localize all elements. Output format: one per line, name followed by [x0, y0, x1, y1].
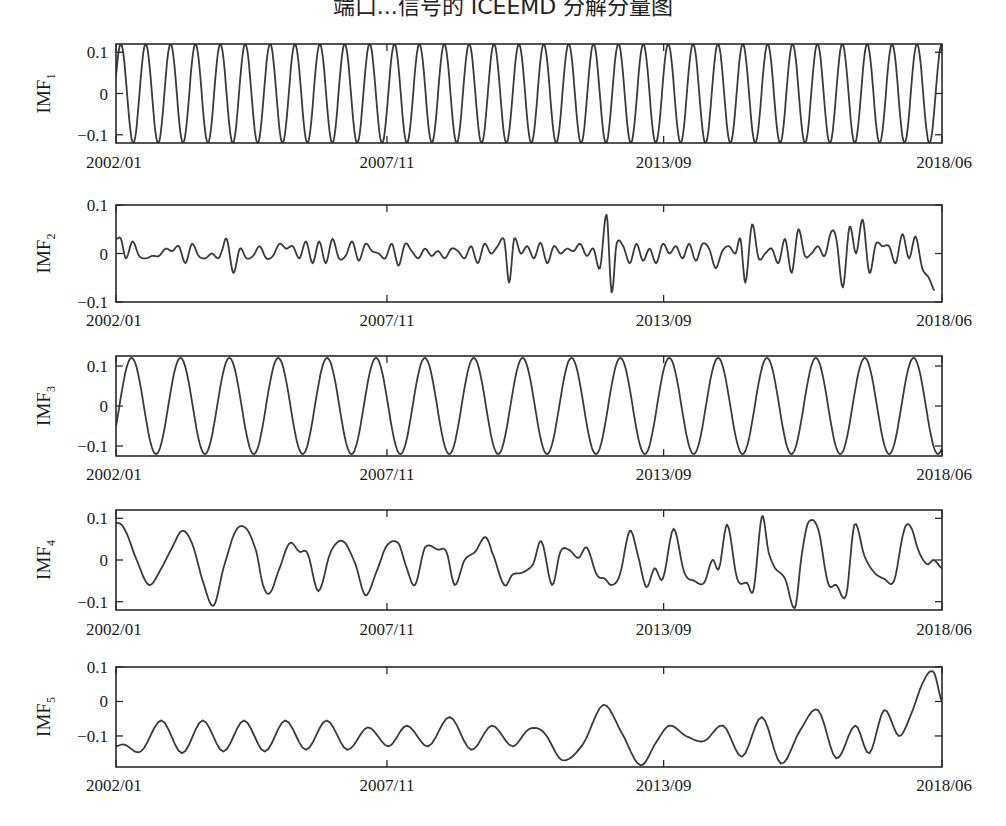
x-tick-label: 2018/06	[916, 620, 972, 639]
y-tick-label: −0.1	[77, 293, 108, 312]
y-tick-label: −0.1	[77, 437, 108, 456]
panel-imf5: 0.10−0.12002/012007/112013/092018/06IMF5	[33, 658, 972, 795]
y-axis-label: IMF5	[33, 697, 58, 737]
y-axis-label: IMF2	[33, 234, 58, 274]
axes-frame	[116, 667, 942, 767]
y-tick-label: 0.1	[87, 658, 108, 677]
y-tick-label: 0.1	[87, 357, 108, 376]
x-tick-label: 2013/09	[636, 620, 692, 639]
x-tick-label: 2007/11	[359, 620, 414, 639]
y-axis-label: IMF1	[33, 74, 58, 114]
panel-imf2: 0.10−0.12002/012007/112013/092018/06IMF2	[33, 196, 972, 330]
y-tick-label: 0	[100, 692, 109, 711]
y-tick-label: 0.1	[87, 509, 108, 528]
y-tick-label: −0.1	[77, 593, 108, 612]
panel-imf4: 0.10−0.12002/012007/112013/092018/06IMF4	[33, 509, 972, 639]
x-tick-label: 2013/09	[636, 311, 692, 330]
x-tick-label: 2013/09	[636, 465, 692, 484]
x-tick-label: 2018/06	[916, 776, 972, 795]
y-tick-label: 0.1	[87, 43, 108, 62]
x-tick-label: 2018/06	[916, 311, 972, 330]
x-tick-label: 2007/11	[359, 776, 414, 795]
y-tick-label: −0.1	[77, 126, 108, 145]
x-tick-label: 2002/01	[86, 311, 142, 330]
series-line-imf4	[116, 516, 942, 608]
series-line-imf3	[116, 358, 942, 454]
x-tick-label: 2002/01	[86, 620, 142, 639]
x-tick-label: 2013/09	[636, 153, 692, 172]
y-tick-label: 0.1	[87, 196, 108, 215]
y-tick-label: 0	[100, 551, 109, 570]
x-tick-label: 2013/09	[636, 776, 692, 795]
panel-imf3: 0.10−0.12002/012007/112013/092018/06IMF3	[33, 356, 972, 484]
x-tick-label: 2007/11	[359, 153, 414, 172]
x-tick-label: 2018/06	[916, 153, 972, 172]
y-tick-label: −0.1	[77, 727, 108, 746]
x-tick-label: 2002/01	[86, 465, 142, 484]
x-tick-label: 2002/01	[86, 153, 142, 172]
y-tick-label: 0	[100, 85, 109, 104]
y-tick-label: 0	[100, 245, 109, 264]
axes-frame	[116, 205, 942, 302]
imf-decomposition-figure: 0.10−0.12002/012007/112013/092018/06IMF1…	[0, 0, 1006, 826]
x-tick-label: 2007/11	[359, 465, 414, 484]
y-tick-label: 0	[100, 397, 109, 416]
panels-container: 0.10−0.12002/012007/112013/092018/06IMF1…	[33, 43, 972, 795]
x-tick-label: 2007/11	[359, 311, 414, 330]
axes-frame	[116, 510, 942, 610]
series-line-imf2	[116, 215, 934, 293]
y-axis-label: IMF4	[33, 540, 58, 580]
series-line-imf1	[116, 44, 942, 143]
panel-imf1: 0.10−0.12002/012007/112013/092018/06IMF1	[33, 43, 972, 172]
y-axis-label: IMF3	[33, 386, 58, 426]
series-line-imf5	[116, 671, 942, 765]
x-tick-label: 2018/06	[916, 465, 972, 484]
x-tick-label: 2002/01	[86, 776, 142, 795]
